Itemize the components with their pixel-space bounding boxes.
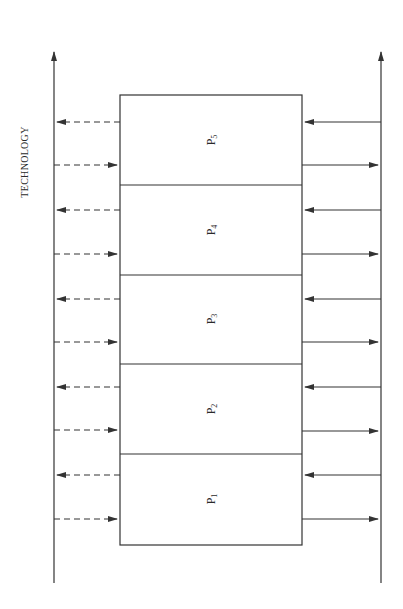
process-label-p4: P4 [201, 220, 221, 240]
process-subscript: 4 [210, 225, 219, 229]
process-subscript: 3 [210, 314, 219, 318]
right-solid-arrows [302, 122, 381, 519]
process-name: P [204, 408, 218, 415]
process-label-p5: P5 [201, 130, 221, 150]
process-label-p1: P1 [201, 489, 221, 509]
process-name: P [204, 139, 218, 146]
process-label-p3: P3 [201, 309, 221, 329]
process-name: P [204, 498, 218, 505]
process-subscript: 1 [210, 494, 219, 498]
technology-axis-label: TECHNOLOGY [14, 152, 34, 172]
left-dashed-arrows [54, 122, 120, 519]
technology-label-text: TECHNOLOGY [19, 126, 30, 197]
process-name: P [204, 318, 218, 325]
process-subscript: 2 [210, 404, 219, 408]
process-subscript: 5 [210, 135, 219, 139]
process-label-p2: P2 [201, 399, 221, 419]
process-name: P [204, 229, 218, 236]
technology-process-diagram [0, 0, 403, 609]
